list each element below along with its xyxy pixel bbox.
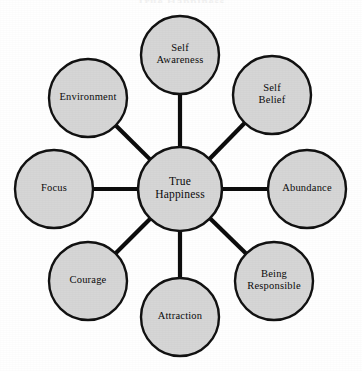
node-focus-label-line1: Focus [41,182,67,193]
node-attraction[interactable]: Attraction [141,278,219,356]
node-environment-label-line1: Environment [59,91,116,102]
node-courage[interactable]: Courage [49,242,127,320]
node-self-belief-label-line2: Belief [259,94,286,105]
diagram-canvas: True Happiness SelfAwarenessSelfBeliefAb… [0,0,362,371]
node-being-responsible-label-line2: Responsible [247,280,301,291]
node-focus[interactable]: Focus [15,150,93,228]
spoke-courage [114,217,152,255]
spoke-self-belief [208,121,246,160]
node-attraction-label-line1: Attraction [158,310,203,321]
hub-true-happiness[interactable]: TrueHappiness [138,147,222,231]
node-being-responsible[interactable]: BeingResponsible [235,242,313,320]
node-abundance[interactable]: Abundance [268,150,346,228]
node-self-belief[interactable]: SelfBelief [233,56,311,134]
node-self-belief-label-line1: Self [263,82,281,93]
node-self-awareness-label-line2: Awareness [157,54,204,65]
hub-and-spoke-diagram: SelfAwarenessSelfBeliefAbundanceBeingRes… [0,0,362,371]
hub-true-happiness-label-line1: True [169,175,191,187]
node-environment[interactable]: Environment [49,59,127,137]
hub-true-happiness-label-line2: Happiness [155,188,205,201]
hub-group: TrueHappiness [138,147,222,231]
spoke-being-responsible [209,217,248,255]
node-self-awareness-label-line1: Self [171,42,189,53]
spoke-environment [114,124,151,161]
node-being-responsible-label-line1: Being [261,268,288,279]
node-courage-label-line1: Courage [70,274,107,285]
node-self-awareness[interactable]: SelfAwareness [141,16,219,94]
node-abundance-label-line1: Abundance [282,182,332,193]
